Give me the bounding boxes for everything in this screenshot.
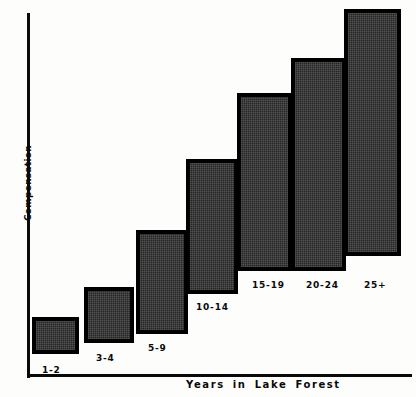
x-axis-line (27, 374, 412, 377)
bar-category-label: 3-4 (96, 353, 115, 363)
y-axis-title: Compensation (23, 123, 33, 243)
bar (32, 317, 79, 354)
bar-category-label: 20-24 (306, 280, 339, 290)
bar-chart: Compensation Years in Lake Forest 1-23-4… (0, 0, 416, 397)
x-axis-title: Years in Lake Forest (186, 379, 341, 390)
bar-category-label: 15-19 (252, 280, 285, 290)
bar-category-label: 1-2 (42, 365, 61, 375)
bar (84, 287, 134, 343)
bar (291, 58, 346, 271)
bar (237, 93, 292, 271)
bar (344, 9, 401, 256)
bar (186, 159, 238, 294)
bar-category-label: 10-14 (196, 302, 229, 312)
bar-category-label: 25+ (364, 280, 386, 290)
bar-category-label: 5-9 (148, 343, 167, 353)
bar (136, 230, 188, 334)
